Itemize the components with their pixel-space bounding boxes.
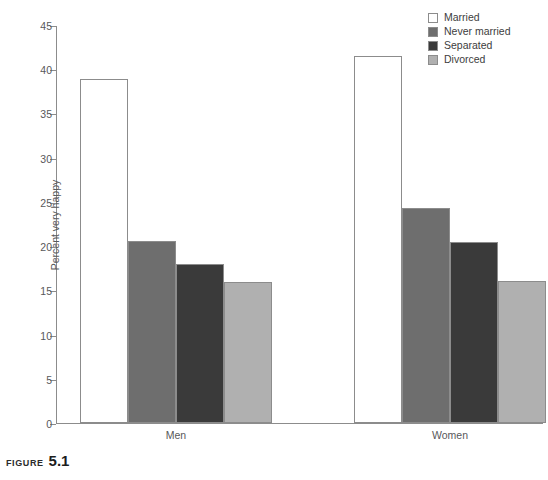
- legend-swatch-icon: [428, 41, 438, 51]
- y-tick-label: 30: [40, 153, 52, 164]
- bar: [80, 79, 128, 423]
- y-tick-label: 20: [40, 242, 52, 253]
- y-tick-label: 35: [40, 109, 52, 120]
- chart-legend: MarriedNever marriedSeparatedDivorced: [428, 11, 511, 66]
- bar: [176, 264, 224, 423]
- bar: [354, 56, 402, 423]
- group-label: Men: [166, 430, 186, 441]
- y-axis-title: Percent very happy: [50, 180, 61, 270]
- y-tick-label: 0: [46, 419, 52, 430]
- y-tick-label: 15: [40, 286, 52, 297]
- legend-item[interactable]: Married: [428, 11, 511, 24]
- bar: [498, 281, 546, 423]
- bar: [224, 282, 272, 423]
- legend-label: Never married: [444, 26, 511, 37]
- legend-swatch-icon: [428, 13, 438, 23]
- legend-label: Divorced: [444, 54, 485, 65]
- legend-swatch-icon: [428, 27, 438, 37]
- y-tick-label: 45: [40, 21, 52, 32]
- legend-item[interactable]: Divorced: [428, 53, 511, 66]
- group-label: Women: [432, 430, 468, 441]
- caption-number: 5.1: [49, 452, 70, 469]
- figure-container: Percent very happy 051015202530354045 Me…: [0, 0, 548, 480]
- caption-word: FIGURE: [6, 458, 44, 468]
- bar: [402, 208, 450, 423]
- legend-label: Separated: [444, 40, 492, 51]
- legend-item[interactable]: Separated: [428, 39, 511, 52]
- y-tick-label: 10: [40, 330, 52, 341]
- bar: [128, 241, 176, 423]
- x-axis-line: [56, 423, 543, 424]
- legend-swatch-icon: [428, 55, 438, 65]
- legend-item[interactable]: Never married: [428, 25, 511, 38]
- y-tick-label: 40: [40, 65, 52, 76]
- figure-caption: FIGURE 5.1: [6, 452, 69, 469]
- y-tick-label: 25: [40, 198, 52, 209]
- plot-area: Percent very happy 051015202530354045 Me…: [56, 26, 538, 424]
- legend-label: Married: [444, 12, 480, 23]
- bar: [450, 242, 498, 423]
- y-tick-label: 5: [46, 375, 52, 386]
